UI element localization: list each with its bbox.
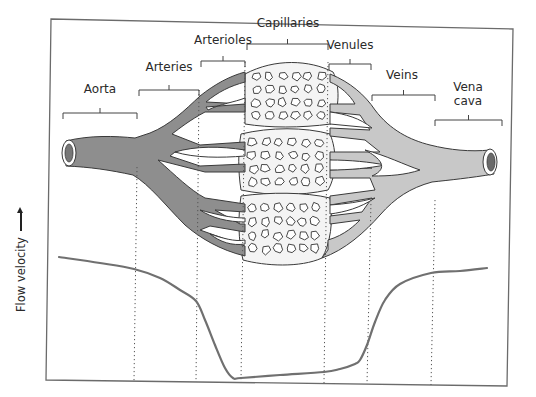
capillary-cell	[265, 112, 274, 120]
label-veins: Veins	[386, 68, 418, 82]
vessel-diagram: AortaArteriesArteriolesCapillariesVenule…	[0, 0, 536, 397]
label-venules: Venules	[327, 38, 374, 52]
label-line: Arterioles	[194, 33, 252, 47]
bracket-capillaries	[247, 39, 328, 50]
label-vena-cava: Venacava	[453, 80, 483, 108]
arterial-tree	[62, 72, 245, 256]
y-axis-label: Flow velocity	[14, 211, 28, 312]
label-line: Arteries	[145, 60, 192, 74]
label-capillaries: Capillaries	[257, 16, 320, 30]
capillary-cell	[315, 139, 324, 146]
capillary-cell	[304, 99, 312, 106]
up-arrow-icon	[20, 211, 22, 231]
divider-line-0	[134, 167, 137, 381]
diagram-canvas	[0, 0, 536, 397]
label-line: Capillaries	[257, 16, 320, 30]
capillary-cell	[261, 203, 270, 211]
bracket-veins	[372, 90, 435, 101]
label-arteries: Arteries	[145, 60, 192, 74]
label-line: Vena	[453, 80, 483, 94]
label-line: cava	[453, 94, 483, 108]
flow-velocity-curve	[59, 257, 487, 379]
divider-line-5	[431, 200, 435, 385]
bracket-venules	[329, 59, 371, 70]
y-axis-label-text: Flow velocity	[14, 237, 28, 312]
bracket-arteries	[139, 85, 199, 96]
label-line: Veins	[386, 68, 418, 82]
capillary-cell	[301, 177, 310, 185]
bracket-aorta	[63, 108, 137, 119]
label-aorta: Aorta	[84, 82, 116, 96]
bracket-vena-cava	[435, 115, 502, 126]
label-arterioles: Arterioles	[194, 33, 252, 47]
label-line: Venules	[327, 38, 374, 52]
bracket-arterioles	[201, 56, 245, 67]
label-line: Aorta	[84, 82, 116, 96]
